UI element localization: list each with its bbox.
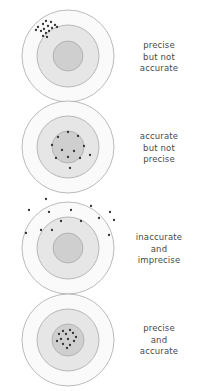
shot-dot bbox=[67, 131, 69, 133]
shot-dot bbox=[51, 229, 53, 231]
shot-dots-3 bbox=[25, 198, 115, 236]
shot-dots-1 bbox=[35, 20, 58, 38]
shot-dot bbox=[66, 347, 68, 349]
shot-dot bbox=[43, 28, 45, 30]
shot-dot bbox=[69, 344, 71, 346]
shot-dot bbox=[65, 333, 67, 335]
shot-dot bbox=[98, 217, 100, 219]
shot-dot bbox=[69, 167, 71, 169]
shot-dot bbox=[46, 36, 48, 38]
shot-dot bbox=[37, 26, 39, 28]
shot-dot bbox=[51, 144, 53, 146]
shot-dot bbox=[72, 332, 74, 334]
shot-dot bbox=[58, 333, 60, 335]
shot-dot bbox=[80, 220, 82, 222]
shot-dot bbox=[62, 330, 64, 332]
shot-dot bbox=[42, 35, 44, 37]
shot-dot bbox=[73, 340, 75, 342]
bullseye bbox=[52, 131, 84, 163]
shot-dot bbox=[51, 27, 53, 29]
shot-dot bbox=[75, 336, 77, 338]
shot-dot bbox=[45, 20, 47, 22]
shot-dot bbox=[73, 150, 75, 152]
middle-ring bbox=[37, 309, 99, 371]
shot-dot bbox=[113, 219, 115, 221]
shot-dot bbox=[89, 154, 91, 156]
outer-ring bbox=[22, 10, 114, 102]
shot-dot bbox=[42, 23, 44, 25]
caption-inaccurate-imprecise: inaccurate and imprecise bbox=[120, 232, 198, 267]
shot-dot bbox=[50, 21, 52, 23]
shot-dot bbox=[48, 30, 50, 32]
shot-dot bbox=[69, 329, 71, 331]
target-rings-4 bbox=[22, 294, 114, 386]
shot-dot bbox=[47, 25, 49, 27]
outer-ring bbox=[22, 101, 114, 193]
shot-dot bbox=[83, 145, 85, 147]
shot-dot bbox=[60, 338, 62, 340]
middle-ring bbox=[37, 116, 99, 178]
shot-dot bbox=[48, 211, 50, 213]
shot-dot bbox=[40, 229, 42, 231]
shot-dot bbox=[70, 209, 72, 211]
target-rings-3 bbox=[22, 202, 114, 294]
bullseye bbox=[52, 324, 84, 356]
shot-dot bbox=[55, 157, 57, 159]
outer-ring bbox=[22, 202, 114, 294]
shot-dot bbox=[56, 26, 58, 28]
target-rings-1 bbox=[22, 10, 114, 102]
caption-precise-accurate: precise and accurate bbox=[120, 323, 198, 358]
target-rings-2 bbox=[22, 101, 114, 193]
shot-dot bbox=[67, 156, 69, 158]
middle-ring bbox=[37, 25, 99, 87]
shot-dots-4 bbox=[56, 329, 77, 349]
shot-dot bbox=[45, 198, 47, 200]
shot-dot bbox=[56, 340, 58, 342]
middle-ring bbox=[37, 217, 99, 279]
caption-precise-not-accurate: precise but not accurate bbox=[120, 40, 198, 75]
shot-dot bbox=[25, 232, 27, 234]
shot-dot bbox=[67, 338, 69, 340]
shot-dot bbox=[109, 211, 111, 213]
shot-dots-2 bbox=[51, 131, 91, 169]
shot-dot bbox=[77, 135, 79, 137]
shot-dot bbox=[79, 157, 81, 159]
shot-dot bbox=[108, 234, 110, 236]
shot-dot bbox=[54, 24, 56, 26]
caption-accurate-not-precise: accurate but not precise bbox=[120, 131, 198, 166]
shot-dot bbox=[35, 29, 37, 31]
shot-dot bbox=[90, 205, 92, 207]
shot-dot bbox=[61, 149, 63, 151]
bullseye bbox=[53, 233, 83, 263]
shot-dot bbox=[62, 343, 64, 345]
outer-ring bbox=[22, 294, 114, 386]
shot-dot bbox=[57, 136, 59, 138]
shot-dot bbox=[45, 32, 47, 34]
bullseye bbox=[53, 41, 83, 71]
shot-dot bbox=[28, 209, 30, 211]
shot-dot bbox=[40, 30, 42, 32]
accuracy-precision-figure: precise but not accurate accurate but no… bbox=[0, 0, 198, 391]
shot-dot bbox=[60, 220, 62, 222]
